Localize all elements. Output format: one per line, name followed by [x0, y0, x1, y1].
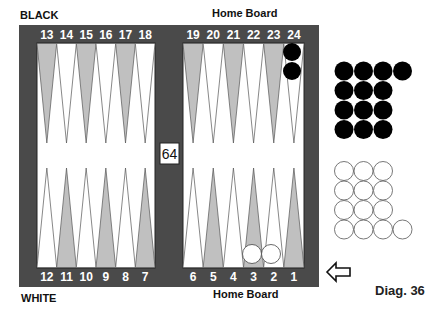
white-borne-off-checker — [354, 201, 373, 220]
point-number: 17 — [119, 28, 133, 42]
black-borne-off-checker — [335, 101, 354, 120]
white-borne-off-checker — [374, 181, 393, 200]
white-borne-off-checker — [354, 220, 373, 239]
black-borne-off-checker — [393, 62, 412, 81]
black-borne-off-checker — [335, 120, 354, 139]
point-number: 23 — [267, 28, 281, 42]
backgammon-board: 131415161718192021222324 121110987654321… — [0, 0, 441, 318]
point-number: 10 — [79, 270, 93, 284]
white-borne-off-checker — [335, 201, 354, 220]
white-borne-off-checker — [374, 201, 393, 220]
point-number: 16 — [99, 28, 113, 42]
cube-value: 64 — [162, 146, 178, 162]
point-number: 15 — [79, 28, 93, 42]
doubling-cube[interactable]: 64 — [160, 143, 179, 164]
point-number: 5 — [210, 270, 217, 284]
black-borne-off-checker — [374, 120, 393, 139]
borne-off-white — [335, 162, 413, 240]
white-borne-off-checker — [374, 220, 393, 239]
point-number: 1 — [291, 270, 298, 284]
point-number: 8 — [122, 270, 129, 284]
point-number: 19 — [186, 28, 200, 42]
white-checker[interactable] — [262, 245, 281, 264]
point-number: 11 — [60, 270, 73, 284]
point-number: 9 — [102, 270, 109, 284]
black-borne-off-checker — [354, 101, 373, 120]
white-borne-off-checker — [393, 220, 412, 239]
black-borne-off-checker — [374, 81, 393, 100]
point-number: 7 — [142, 270, 149, 284]
point-number: 18 — [138, 28, 152, 42]
point-number: 22 — [247, 28, 261, 42]
black-borne-off-checker — [354, 120, 373, 139]
black-borne-off-checker — [354, 62, 373, 81]
black-borne-off-checker — [335, 81, 354, 100]
white-borne-off-checker — [335, 220, 354, 239]
black-checker[interactable] — [283, 62, 301, 80]
black-borne-off-checker — [354, 81, 373, 100]
white-borne-off-checker — [354, 181, 373, 200]
borne-off-black — [335, 62, 413, 140]
black-checker[interactable] — [283, 43, 301, 61]
white-borne-off-checker — [335, 162, 354, 181]
point-number: 20 — [207, 28, 221, 42]
point-number: 13 — [40, 28, 54, 42]
point-number: 14 — [60, 28, 74, 42]
point-number: 6 — [190, 270, 197, 284]
point-number: 3 — [250, 270, 257, 284]
black-borne-off-checker — [374, 62, 393, 81]
point-number: 2 — [270, 270, 277, 284]
white-checker[interactable] — [243, 245, 262, 264]
point-number: 21 — [227, 28, 241, 42]
white-borne-off-checker — [335, 181, 354, 200]
outer-board-field — [37, 43, 155, 268]
point-number: 4 — [230, 270, 237, 284]
black-borne-off-checker — [374, 101, 393, 120]
white-borne-off-checker — [374, 162, 393, 181]
left-arrow-icon — [327, 263, 350, 281]
white-borne-off-checker — [354, 162, 373, 181]
point-number: 12 — [40, 270, 54, 284]
black-borne-off-checker — [335, 62, 354, 81]
point-number: 24 — [287, 28, 301, 42]
